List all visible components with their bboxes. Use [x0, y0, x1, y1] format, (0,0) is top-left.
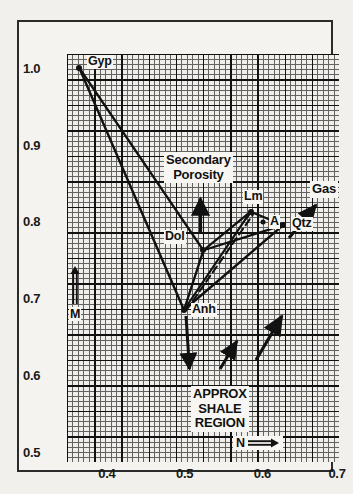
y-tick-0.8: 0.8 [23, 214, 40, 229]
shale-region-label: APPROX SHALE REGION [191, 386, 249, 432]
gas-label: Gas [310, 181, 338, 198]
m-axis-symbol: M [69, 307, 81, 321]
secondary-porosity-line-1: Secondary [166, 153, 231, 168]
point-label-gyp: Gyp [87, 55, 113, 69]
m-axis-indicator: M [69, 266, 81, 321]
shale-region-line-1: APPROX [193, 387, 247, 402]
y-tick-0.7: 0.7 [23, 291, 40, 306]
x-tick-0.5: 0.5 [176, 466, 193, 481]
point-dol[interactable] [200, 247, 206, 253]
point-label-dol: Dol [164, 230, 186, 244]
plot-area: Gyp Anh Dol Lm A Qtz Secondary Porosity … [67, 54, 339, 462]
shale-region-line-3: REGION [193, 416, 247, 431]
point-gyp[interactable] [76, 65, 82, 71]
point-label-qtz: Qtz [291, 217, 313, 231]
line-dol-lm [203, 212, 250, 251]
point-a[interactable] [261, 220, 266, 225]
n-axis-indicator: N [233, 436, 283, 450]
point-anh[interactable] [181, 307, 187, 313]
point-label-anh: Anh [191, 303, 217, 317]
line-anh-lm-dashed [187, 215, 254, 311]
secondary-porosity-line-2: Porosity [166, 168, 231, 183]
point-label-lm: Lm [243, 190, 263, 204]
x-tick-0.4: 0.4 [98, 466, 115, 481]
secondary-porosity-label: Secondary Porosity [164, 152, 233, 183]
m-axis-arrow-icon [69, 266, 81, 306]
line-gyp-anh [79, 68, 184, 310]
x-tick-0.6: 0.6 [254, 466, 271, 481]
shale-region-line-2: SHALE [193, 402, 247, 417]
shale-trend-arrow-1 [220, 341, 237, 369]
shale-trend-arrow-2 [256, 316, 282, 360]
y-tick-0.5: 0.5 [23, 445, 40, 460]
y-tick-0.6: 0.6 [23, 368, 40, 383]
n-axis-symbol: N [235, 436, 246, 450]
point-label-a: A [269, 215, 280, 229]
y-tick-0.9: 0.9 [23, 137, 40, 152]
figure-card: Gyp Anh Dol Lm A Qtz Secondary Porosity … [17, 20, 333, 472]
point-qtz[interactable] [280, 222, 286, 228]
point-lm[interactable] [248, 209, 254, 215]
shale-down-arrow [186, 316, 190, 369]
x-tick-0.7: 0.7 [328, 466, 345, 481]
y-tick-1.0: 1.0 [23, 60, 40, 75]
n-axis-arrow-icon [247, 437, 281, 449]
